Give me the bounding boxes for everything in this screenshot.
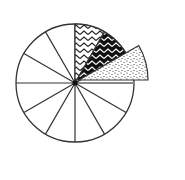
pie-sectors <box>16 24 148 142</box>
center-point <box>73 81 78 86</box>
pie-diagram <box>0 0 185 180</box>
pie-svg <box>0 0 185 180</box>
